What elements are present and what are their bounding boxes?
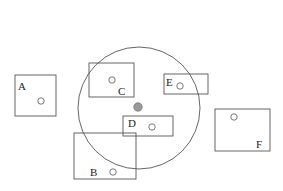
diagram-canvas: A C E D B F bbox=[0, 0, 283, 191]
box-b: B bbox=[74, 133, 136, 179]
point-d bbox=[149, 124, 155, 130]
box-c: C bbox=[89, 63, 134, 97]
point-b bbox=[110, 169, 116, 175]
point-f bbox=[231, 114, 237, 120]
box-label-f: F bbox=[256, 138, 262, 150]
box-label-b: B bbox=[90, 166, 97, 178]
box-label-d: D bbox=[128, 117, 136, 129]
box-a: A bbox=[15, 75, 56, 116]
box-label-c: C bbox=[118, 85, 125, 97]
box-label-a: A bbox=[18, 80, 26, 92]
point-e bbox=[177, 83, 183, 89]
point-c bbox=[109, 77, 115, 83]
box-f: F bbox=[215, 109, 270, 151]
box-e: E bbox=[164, 74, 208, 94]
query-center-point bbox=[134, 103, 142, 111]
point-a bbox=[38, 98, 44, 104]
box-label-e: E bbox=[166, 76, 173, 88]
